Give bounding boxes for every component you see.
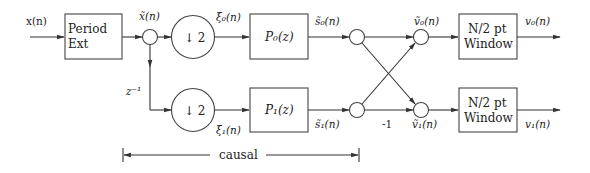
downsample-bottom-label: ↓ 2 (184, 104, 206, 118)
period-ext-line1: Period (68, 22, 107, 36)
downsample-top-label: ↓ 2 (184, 31, 206, 45)
v0-tilde-label: ṽ₀(n) (414, 15, 439, 27)
window-top-line1: N/2 pt (468, 22, 507, 36)
xi1-label: ξ₁(n) (216, 124, 241, 136)
s0-label: s̃₀(n) (315, 15, 340, 27)
filter-p0-label: P₀(z) (264, 30, 294, 44)
filter-p1-label: P₁(z) (264, 103, 294, 117)
butterfly-node-bottom-right (414, 103, 429, 118)
causal-label: causal (219, 148, 258, 162)
gain-label: -1 (382, 118, 392, 130)
window-bottom-block (459, 88, 517, 132)
xi0-label: ξ₀(n) (216, 11, 241, 23)
s1-label: s̃₁(n) (315, 118, 340, 130)
input-label: x(n) (26, 15, 47, 27)
v1-tilde-label: ṽ₁(n) (412, 118, 437, 130)
butterfly-node-top-right (414, 30, 429, 45)
window-bottom-line2: Window (464, 111, 514, 125)
window-top-line2: Window (464, 37, 514, 51)
period-ext-line2: Ext (68, 37, 89, 51)
delay-label: z⁻¹ (125, 85, 141, 97)
butterfly-node-bottom-left (350, 103, 365, 118)
block-diagram: x(n) Period Ext x̃(n) z⁻¹ ↓ 2 ↓ 2 ξ₀(n) … (0, 0, 590, 173)
window-bottom-line1: N/2 pt (468, 96, 507, 110)
butterfly-node-top-left (350, 30, 365, 45)
split-junction (143, 30, 158, 45)
x-tilde-label: x̃(n) (139, 10, 160, 22)
v1-label: v₁(n) (525, 118, 550, 130)
v0-label: v₀(n) (525, 15, 550, 27)
